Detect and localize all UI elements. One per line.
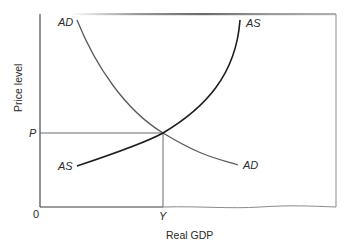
ad-label-bottom: AD [242, 159, 258, 171]
ad-label-top: AD [57, 16, 73, 28]
ad-curve [77, 20, 238, 165]
output-equilibrium-label: Y [159, 210, 167, 222]
as-label-top: AS [245, 17, 261, 29]
price-equilibrium-label: P [29, 127, 37, 139]
frame-bottom-edge [163, 206, 336, 208]
as-curve [77, 20, 240, 166]
origin-label: 0 [33, 208, 39, 220]
x-axis-title: Real GDP [166, 229, 213, 241]
as-label-bottom: AS [57, 160, 73, 172]
ad-as-chart: AD AS AS AD P Y 0 Real GDP Price level [0, 0, 349, 250]
y-axis-title: Price level [12, 64, 24, 112]
frame-top-bar [70, 13, 336, 15]
